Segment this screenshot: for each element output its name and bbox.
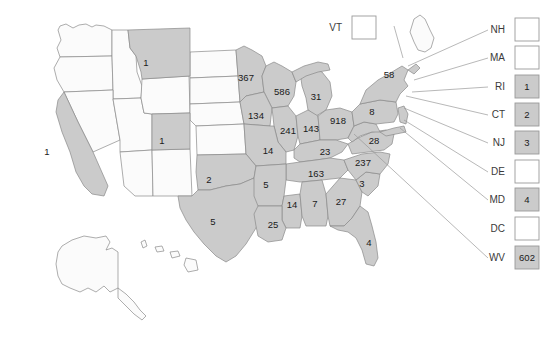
state-AK xyxy=(56,236,118,292)
callout-label-CT: CT xyxy=(492,109,505,120)
callout-value-MD: 4 xyxy=(524,194,529,205)
state-AR xyxy=(254,164,286,206)
state-SD xyxy=(190,76,240,104)
callout-swatch-VT xyxy=(352,16,376,39)
callout-label-NJ: NJ xyxy=(493,137,505,148)
callout-label-RI: RI xyxy=(495,81,505,92)
callout-label-WV: WV xyxy=(489,252,505,263)
state-OH xyxy=(318,108,354,140)
state-ND xyxy=(190,50,238,78)
state-AL xyxy=(300,180,328,226)
callout-value-CT: 2 xyxy=(524,109,529,120)
state-OR xyxy=(54,56,113,92)
callout-label-DE: DE xyxy=(491,166,505,177)
us-choropleth-map: 1113675863113424114391814231632551472732… xyxy=(0,0,554,344)
callout-label-MA: MA xyxy=(490,52,505,63)
callout-swatch-MA xyxy=(515,46,539,69)
state-NE xyxy=(190,102,244,126)
state-NM xyxy=(152,149,192,196)
callout-value-NJ: 3 xyxy=(524,137,529,148)
callout-value-WV: 602 xyxy=(519,252,535,263)
callout-label-VT: VT xyxy=(329,22,342,33)
callout-value-RI: 1 xyxy=(524,81,529,92)
callout-swatch-NH xyxy=(515,18,539,41)
state-WA xyxy=(57,24,112,57)
callout-label-DC: DC xyxy=(491,223,505,234)
state-WY xyxy=(141,76,190,114)
state-CO xyxy=(152,113,190,150)
state-IN xyxy=(296,110,320,144)
callout-swatch-DC xyxy=(515,217,539,240)
callout-swatch-DE xyxy=(515,160,539,183)
callout-label-MD: MD xyxy=(489,194,505,205)
state-LA xyxy=(254,206,286,242)
callout-label-NH: NH xyxy=(491,24,505,35)
state-MS xyxy=(282,194,302,228)
state-HI-2 xyxy=(155,246,164,252)
state-KS xyxy=(196,124,246,155)
